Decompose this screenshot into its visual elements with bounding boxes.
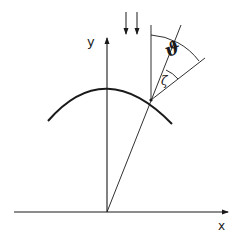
- diagram-canvas: [0, 0, 241, 239]
- zeta-label: ζ: [161, 75, 168, 87]
- incidence-point: [149, 98, 152, 101]
- x-axis-label: x: [218, 220, 225, 232]
- y-axis-label: y: [87, 35, 95, 48]
